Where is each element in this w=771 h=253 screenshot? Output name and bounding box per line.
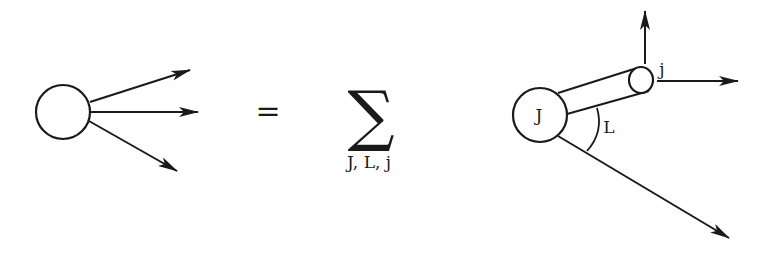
subsystem-label-j: j [657, 59, 664, 79]
left-arrow-upper [90, 70, 190, 102]
diagram-canvas: = ∑ J, L, j J j L [0, 0, 771, 253]
equals-sign: = [255, 93, 280, 128]
tube-top-line [558, 68, 637, 93]
summation-indices: J, L, j [345, 152, 391, 172]
subsystem-circle-j [629, 67, 653, 93]
summation-group: ∑ J, L, j [345, 77, 395, 172]
recoil-arrow [558, 136, 729, 238]
angular-momentum-label-L: L [603, 117, 614, 137]
left-arrow-lower [89, 121, 177, 171]
diagram-svg: = ∑ J, L, j J j L [0, 0, 771, 253]
left-vertex-circle [36, 85, 90, 139]
parent-label-J: J [534, 105, 543, 125]
tube-bottom-line [567, 91, 649, 114]
sigma-symbol: ∑ [347, 77, 394, 154]
left-vertex-group [36, 70, 198, 171]
angular-momentum-arc [587, 108, 599, 151]
right-diagram-group: J j L [513, 11, 738, 238]
